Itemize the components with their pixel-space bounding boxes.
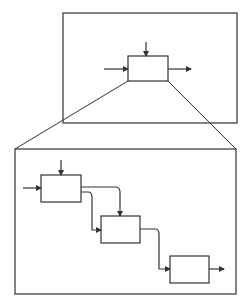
process-box-step-2	[101, 216, 140, 243]
zoom-diagram	[0, 0, 250, 306]
detail-group	[15, 149, 236, 294]
zoom-lines-group	[15, 81, 236, 149]
process-box-step-3	[170, 256, 209, 283]
overview-group	[63, 13, 237, 123]
process-box-step-1	[41, 175, 81, 202]
zoom-line-1	[168, 81, 236, 149]
zoom-line-0	[15, 81, 128, 149]
overview-process-box	[128, 56, 168, 81]
